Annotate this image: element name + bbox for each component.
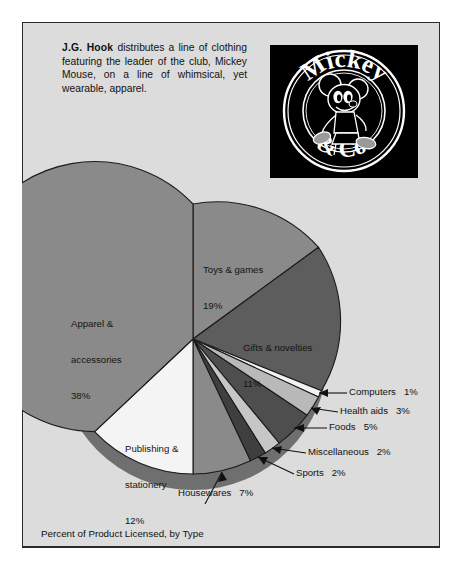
label-toys-and-games-name: Toys & games	[203, 264, 263, 276]
label-foods: Foods 5%	[329, 421, 378, 433]
label-gifts-and-novelties-name: Gifts & novelties	[243, 342, 312, 354]
label-gifts-and-novelties: Gifts & novelties 11%	[243, 318, 312, 414]
label-publishing-pct: 12%	[125, 515, 178, 527]
label-apparel-and-accessories: Apparel & accessories 38%	[71, 294, 122, 426]
label-housewares: Housewares 7%	[178, 487, 253, 499]
infographic-root: J.G. Hook distributes a line of clothing…	[0, 0, 462, 577]
label-health-aids: Health aids 3%	[340, 405, 410, 417]
label-apparel-pct: 38%	[71, 390, 122, 402]
label-apparel-line2: accessories	[71, 354, 122, 366]
label-sports: Sports 2%	[296, 467, 346, 479]
chart-caption: Percent of Product Licensed, by Type	[41, 528, 204, 539]
label-gifts-and-novelties-pct: 11%	[243, 378, 312, 390]
label-miscellaneous: Miscellaneous 2%	[308, 446, 391, 458]
label-toys-and-games-pct: 19%	[203, 300, 263, 312]
label-publishing-line1: Publishing &	[125, 443, 178, 455]
label-computers: Computers 1%	[349, 386, 418, 398]
label-apparel-line1: Apparel &	[71, 318, 122, 330]
label-publishing-line2: stationery	[125, 479, 178, 491]
caption-rule	[23, 546, 439, 548]
